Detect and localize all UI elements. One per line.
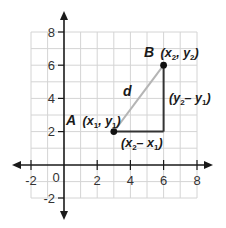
y-axis-down-arrow-icon [60, 211, 68, 220]
y-tick-label: -2 [43, 191, 55, 206]
hleg-mid: – x [137, 136, 155, 150]
y-tick-label: 2 [48, 124, 55, 139]
vleg-mid: – y [185, 91, 203, 105]
x-tick-label: 8 [193, 173, 200, 188]
y-axis-up-arrow-icon [60, 11, 68, 20]
y-tick-label: 8 [48, 25, 55, 40]
x-tick-label: 2 [94, 173, 101, 188]
x-axis [12, 161, 213, 169]
point-b-name: B [144, 44, 154, 60]
point-b-mid: , y [175, 46, 191, 60]
horizontal-leg-label: (x2– x1) [121, 136, 163, 152]
coordinate-plane-diagram: -2 0 2 4 6 8 8 6 4 2 -2 d A (x1, y1) B (… [0, 0, 226, 228]
y-tick-label: 4 [48, 91, 55, 106]
distance-label: d [123, 83, 132, 99]
x-tick-label: -2 [25, 173, 37, 188]
point-a-mid: , y [97, 114, 113, 128]
x-axis-left-arrow-icon [12, 161, 21, 169]
point-b-label: B (x2, y2) [144, 44, 199, 62]
vertical-leg-label: (y2– y1) [169, 91, 211, 107]
x-axis-right-arrow-icon [204, 161, 213, 169]
x-tick-label: 4 [127, 173, 134, 188]
origin-label: 0 [52, 170, 59, 185]
x-tick-labels: -2 0 2 4 6 8 [25, 170, 200, 188]
point-b [160, 62, 167, 69]
y-tick-label: 6 [48, 58, 55, 73]
point-a-name: A [65, 112, 76, 128]
x-tick-label: 6 [160, 173, 167, 188]
